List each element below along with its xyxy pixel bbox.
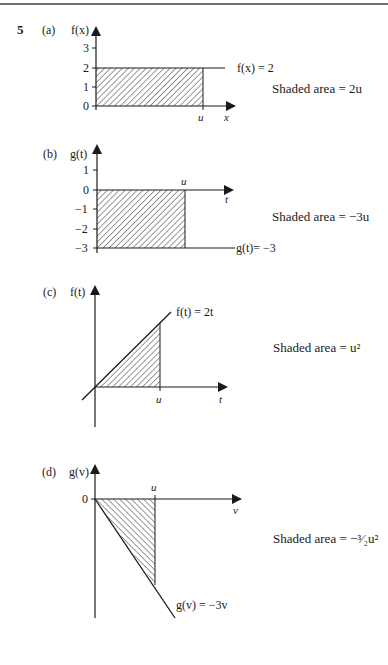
ytick-b-neg1: −1	[75, 202, 88, 217]
result-c: Shaded area = u²	[273, 340, 360, 356]
u-label-d: u	[151, 481, 157, 493]
part-label-d: (d)	[42, 465, 56, 480]
panel-d	[91, 468, 238, 618]
u-label-b: u	[181, 175, 187, 187]
x-axis-label-d: v	[233, 504, 238, 516]
part-label-c: (c)	[43, 285, 56, 300]
result-b: Shaded area = −3u	[272, 209, 369, 225]
shaded-region-b	[97, 190, 185, 248]
y-axis-label-d: g(v)	[69, 465, 89, 480]
ytick-b-neg3: −3	[75, 241, 88, 256]
y-axis-label-b: g(t)	[70, 147, 87, 162]
x-axis-label-a: x	[224, 111, 229, 123]
ytick-d-0: 0	[82, 492, 88, 507]
x-axis-label-c: t	[219, 393, 222, 405]
ytick-a-3: 3	[83, 41, 89, 56]
curve-label-b: g(t)= −3	[236, 241, 276, 256]
curve-label-c: f(t) = 2t	[176, 305, 213, 320]
curve-label-a: f(x) = 2	[237, 61, 274, 76]
panel-b	[93, 148, 235, 253]
u-label-a: u	[198, 111, 204, 123]
ytick-a-0: 0	[83, 99, 89, 114]
ytick-b-1: 1	[83, 163, 89, 178]
result-d: Shaded area = −³⁄₂u²	[273, 531, 378, 547]
part-label-a: (a)	[42, 23, 55, 38]
shaded-region-a	[96, 68, 203, 106]
curve-label-d: g(v) = −3v	[176, 598, 228, 613]
question-number: 5	[17, 22, 24, 38]
part-label-b: (b)	[43, 147, 57, 162]
figure-canvas	[0, 0, 388, 665]
ytick-b-neg2: −2	[75, 222, 88, 237]
u-label-c: u	[156, 393, 162, 405]
x-axis-label-b: t	[225, 193, 228, 205]
result-a: Shaded area = 2u	[272, 81, 362, 97]
y-axis-label-c: f(t)	[70, 285, 85, 300]
ytick-a-1: 1	[83, 80, 89, 95]
ytick-a-2: 2	[83, 61, 89, 76]
y-axis-label-a: f(x)	[71, 23, 89, 38]
panel-a	[92, 30, 232, 110]
ytick-b-0: 0	[83, 183, 89, 198]
